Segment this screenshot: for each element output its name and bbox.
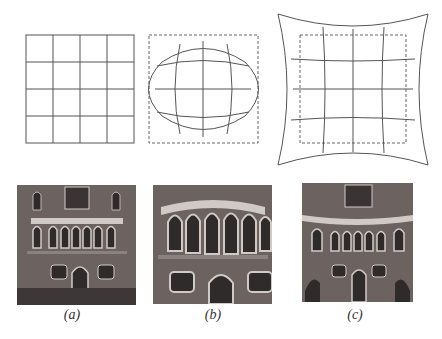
caption-c: (c) xyxy=(335,307,375,323)
caption-a: (a) xyxy=(52,307,92,323)
pincushion-distortion-diagram xyxy=(278,14,428,165)
regular-grid-diagram xyxy=(26,35,134,143)
photo-c-pincushion xyxy=(302,183,413,302)
caption-b: (b) xyxy=(193,307,233,323)
photo-b-barrel xyxy=(153,185,272,304)
photo-a-undistorted xyxy=(17,185,136,305)
barrel-distortion-diagram xyxy=(149,35,259,143)
